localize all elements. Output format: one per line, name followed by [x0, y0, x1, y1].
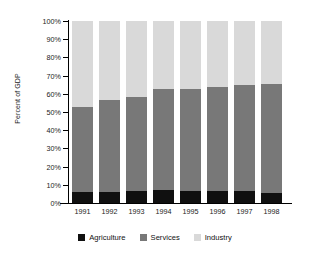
y-tick-label: 100%: [43, 17, 61, 26]
y-tick-label: 0%: [51, 199, 61, 208]
legend-label: Services: [151, 233, 180, 242]
bar-segment-agriculture: [153, 190, 174, 203]
x-tick-label: 1993: [126, 207, 147, 216]
bar-column: [207, 21, 228, 203]
y-tick-label: 70%: [47, 71, 61, 80]
x-tick-label: 1996: [207, 207, 228, 216]
legend-swatch-industry: [194, 234, 201, 241]
bar-segment-industry: [180, 21, 201, 89]
x-axis-labels: 19911992199319941995199619971998: [69, 207, 285, 216]
bar-segment-services: [153, 89, 174, 190]
legend-label: Industry: [205, 233, 232, 242]
stacked-bar-chart: Percent of GDP 0%10%20%30%40%50%60%70%80…: [0, 0, 310, 257]
y-tick-mark: [63, 203, 69, 204]
bar-segment-services: [72, 107, 93, 193]
bar-segment-services: [126, 97, 147, 192]
x-tick-label: 1991: [72, 207, 93, 216]
bar-segment-industry: [99, 21, 120, 100]
bar-segment-agriculture: [261, 193, 282, 203]
bar-segment-agriculture: [207, 191, 228, 203]
y-axis-title: Percent of GDP: [14, 49, 21, 149]
bar-series-group: [69, 21, 285, 203]
y-tick-label: 90%: [47, 35, 61, 44]
x-tick-label: 1995: [180, 207, 201, 216]
bar-segment-industry: [234, 21, 255, 85]
bar-segment-services: [180, 89, 201, 191]
legend-label: Agriculture: [89, 233, 125, 242]
bar-segment-industry: [207, 21, 228, 87]
bar-column: [72, 21, 93, 203]
y-tick-label: 50%: [47, 108, 61, 117]
bar-column: [126, 21, 147, 203]
legend-swatch-agriculture: [78, 234, 85, 241]
bar-segment-services: [99, 100, 120, 192]
plot-area: 0%10%20%30%40%50%60%70%80%90%100%: [69, 21, 285, 203]
bar-segment-services: [207, 87, 228, 192]
y-tick-label: 20%: [47, 162, 61, 171]
bar-segment-services: [261, 84, 282, 193]
bar-column: [99, 21, 120, 203]
x-tick-label: 1994: [153, 207, 174, 216]
bar-segment-industry: [72, 21, 93, 107]
bar-column: [234, 21, 255, 203]
bar-segment-agriculture: [72, 192, 93, 203]
bar-segment-agriculture: [126, 191, 147, 203]
bar-segment-agriculture: [234, 191, 255, 203]
y-tick-label: 10%: [47, 180, 61, 189]
bar-segment-services: [234, 85, 255, 191]
bar-column: [180, 21, 201, 203]
y-tick-label: 60%: [47, 89, 61, 98]
x-tick-label: 1997: [234, 207, 255, 216]
x-tick-label: 1992: [99, 207, 120, 216]
bar-column: [261, 21, 282, 203]
bar-segment-industry: [153, 21, 174, 89]
legend-item-agriculture[interactable]: Agriculture: [78, 233, 125, 242]
y-tick-label: 30%: [47, 144, 61, 153]
bar-segment-agriculture: [180, 191, 201, 203]
legend-swatch-services: [140, 234, 147, 241]
y-tick-label: 40%: [47, 126, 61, 135]
bar-segment-industry: [261, 21, 282, 84]
bar-column: [153, 21, 174, 203]
x-axis-line: [60, 203, 292, 204]
bar-segment-agriculture: [99, 192, 120, 203]
bar-segment-industry: [126, 21, 147, 97]
x-tick-label: 1998: [261, 207, 282, 216]
chart-legend: AgricultureServicesIndustry: [0, 233, 310, 242]
y-tick-label: 80%: [47, 53, 61, 62]
legend-item-industry[interactable]: Industry: [194, 233, 232, 242]
legend-item-services[interactable]: Services: [140, 233, 180, 242]
